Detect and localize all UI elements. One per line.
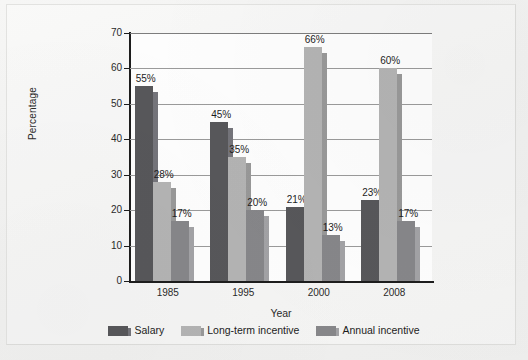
bar-value-label: 35% xyxy=(222,144,256,155)
bar-value-label: 28% xyxy=(147,169,181,180)
bar-value-label: 55% xyxy=(129,73,163,84)
bar-face xyxy=(361,200,379,281)
legend-label: Annual incentive xyxy=(342,325,419,336)
bar-value-label: 66% xyxy=(298,34,332,45)
bar-face xyxy=(153,182,171,281)
bar-face xyxy=(286,207,304,281)
x-tick-label: 1985 xyxy=(133,287,203,298)
x-axis-title: Year xyxy=(130,307,432,319)
x-tick-label: 2008 xyxy=(359,287,429,298)
y-tick-mark xyxy=(124,68,130,69)
y-tick-label: 40 xyxy=(92,134,122,144)
y-tick-mark xyxy=(124,281,130,282)
bar-face xyxy=(135,86,153,281)
bar-shadow xyxy=(189,227,194,281)
y-tick-mark xyxy=(124,139,130,140)
bar-face xyxy=(228,157,246,281)
bar-face xyxy=(322,235,340,281)
y-tick-mark xyxy=(124,104,130,105)
bar-value-label: 17% xyxy=(391,208,425,219)
bar-annual-incentive-1985 xyxy=(171,221,189,281)
y-tick-label: 0 xyxy=(92,276,122,286)
bar-salary-2000 xyxy=(286,207,304,281)
x-tick-label: 1995 xyxy=(208,287,278,298)
bar-value-label: 45% xyxy=(204,109,238,120)
y-tick-label: 60 xyxy=(92,63,122,73)
bar-value-label: 20% xyxy=(240,197,274,208)
bar-value-label: 60% xyxy=(373,55,407,66)
bar-long-term-incentive-2000 xyxy=(304,47,322,281)
bar-salary-2008 xyxy=(361,200,379,281)
y-axis-title: Percentage xyxy=(27,59,38,169)
x-axis-line xyxy=(129,281,434,283)
bar-salary-1985 xyxy=(135,86,153,281)
y-tick-label: 20 xyxy=(92,205,122,215)
legend-item-salary[interactable]: Salary xyxy=(108,325,164,336)
bar-shadow xyxy=(340,241,345,281)
bar-value-label: 13% xyxy=(316,222,350,233)
y-tick-mark xyxy=(124,210,130,211)
gridline xyxy=(130,33,432,34)
chart-figure: Percentage 010203040506070 55%28%17%45%3… xyxy=(0,0,528,360)
bar-face xyxy=(304,47,322,281)
bar-shadow xyxy=(264,216,269,281)
y-tick-mark xyxy=(124,246,130,247)
y-tick-label: 30 xyxy=(92,170,122,180)
y-axis-line xyxy=(129,32,131,282)
y-tick-label: 70 xyxy=(92,28,122,38)
legend-label: Long-term incentive xyxy=(207,325,299,336)
bar-annual-incentive-1995 xyxy=(246,210,264,281)
y-tick-label: 10 xyxy=(92,241,122,251)
legend-swatch-shadow xyxy=(201,328,204,336)
bar-annual-incentive-2008 xyxy=(397,221,415,281)
x-tick-label: 2000 xyxy=(284,287,354,298)
bar-face xyxy=(246,210,264,281)
legend-swatch-icon xyxy=(316,326,336,336)
bar-shadow xyxy=(415,227,420,281)
legend-item-annual-incentive[interactable]: Annual incentive xyxy=(316,325,419,336)
bar-long-term-incentive-2008 xyxy=(379,68,397,281)
bar-face xyxy=(379,68,397,281)
chart-legend: SalaryLong-term incentiveAnnual incentiv… xyxy=(0,325,528,336)
y-tick-mark xyxy=(124,175,130,176)
bar-long-term-incentive-1995 xyxy=(228,157,246,281)
bar-face xyxy=(171,221,189,281)
bar-value-label: 17% xyxy=(165,208,199,219)
bar-annual-incentive-2000 xyxy=(322,235,340,281)
bar-face xyxy=(397,221,415,281)
bar-long-term-incentive-1985 xyxy=(153,182,171,281)
y-tick-mark xyxy=(124,33,130,34)
legend-swatch-shadow xyxy=(128,328,131,336)
legend-item-long-term-incentive[interactable]: Long-term incentive xyxy=(181,325,299,336)
legend-label: Salary xyxy=(134,325,164,336)
y-tick-label: 50 xyxy=(92,99,122,109)
legend-swatch-shadow xyxy=(336,328,339,336)
legend-swatch-icon xyxy=(181,326,201,336)
legend-swatch-icon xyxy=(108,326,128,336)
